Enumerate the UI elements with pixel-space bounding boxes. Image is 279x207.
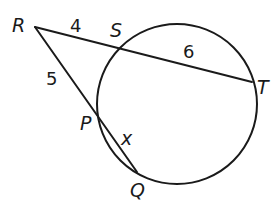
point-label-R: R	[12, 14, 25, 36]
point-label-Q: Q	[130, 179, 145, 201]
point-label-S: S	[110, 19, 122, 41]
point-label-P: P	[80, 112, 92, 134]
length-label-RP: 5	[46, 68, 57, 89]
length-label-ST: 6	[183, 41, 194, 62]
point-label-T: T	[257, 76, 270, 98]
secant-diagram: R S T P Q 4 6 5 x	[0, 0, 279, 207]
length-label-RS: 4	[70, 15, 81, 36]
length-label-PQ: x	[120, 127, 133, 149]
